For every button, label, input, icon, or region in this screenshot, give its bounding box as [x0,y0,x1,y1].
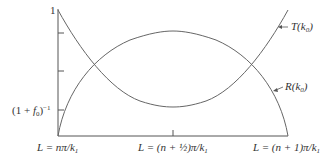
tick-label-open: (1 + [12,104,33,116]
reflection-curve-label: R(k0) [285,81,307,94]
diagram-canvas [0,0,333,159]
transmission-curve [58,10,288,107]
x-axis-label-mid: L = (n + ½)π/k1 [138,142,208,155]
curve-label-close: ) [309,20,313,32]
arrowhead-icon [273,88,278,92]
tick-label-sup: −1 [43,104,50,112]
x-label-text: L = (n + 1)π/k [253,141,317,153]
curve-label-text: T(k [291,20,306,32]
y-axis-top-label: 1 [50,5,56,16]
x-label-sub: 1 [317,147,321,155]
x-label-sub: 1 [75,147,79,155]
x-axis-label-end: L = (n + 1)π/k1 [253,142,320,155]
x-label-text: L = nπ/k [37,141,75,153]
reflection-curve [58,31,288,136]
curve-label-text: R(k [285,80,300,92]
x-label-sub: 1 [204,147,208,155]
curve-label-close: ) [304,80,308,92]
transmission-curve-label: T(k0) [291,21,313,34]
x-axis-label-start: L = nπ/k1 [37,142,78,155]
x-label-text: L = (n + ½)π/k [138,141,204,153]
y-axis-tick-label: (1 + f0)−1 [12,105,51,118]
